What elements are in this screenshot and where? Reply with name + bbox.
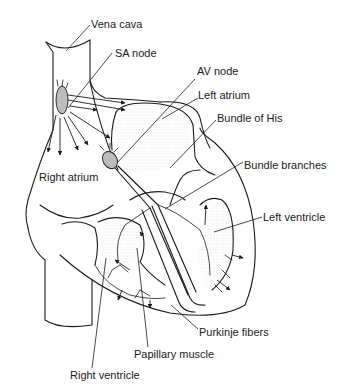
label-purkinje-fibers: Purkinje fibers [199, 326, 269, 338]
interventricular-septum [130, 192, 205, 312]
heart-conduction-diagram [0, 0, 342, 388]
label-right-ventricle: Right ventricle [70, 369, 140, 381]
inferior-vena-cava-shape [28, 228, 92, 327]
label-bundle-branches: Bundle branches [244, 159, 327, 171]
label-bundle-of-his: Bundle of His [217, 112, 282, 124]
label-right-atrium: Right atrium [39, 171, 98, 183]
sa-node [56, 80, 68, 114]
label-av-node: AV node [197, 65, 238, 77]
right-atrium-wall [40, 82, 118, 218]
label-left-atrium: Left atrium [198, 89, 250, 101]
label-left-ventricle: Left ventricle [263, 211, 325, 223]
label-papillary-muscle: Papillary muscle [134, 348, 214, 360]
label-vena-cava: Vena cava [91, 18, 142, 30]
label-sa-node: SA node [115, 47, 157, 59]
